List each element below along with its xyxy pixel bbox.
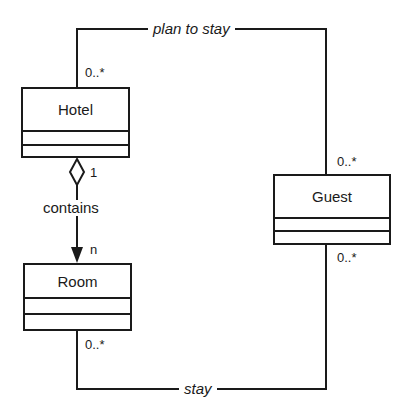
class-hotel-operations bbox=[23, 146, 128, 156]
class-hotel-name: Hotel bbox=[23, 89, 128, 132]
aggregation-diamond-icon bbox=[70, 159, 84, 185]
association-label-stay: stay bbox=[179, 381, 217, 397]
class-guest[interactable]: Guest bbox=[273, 174, 391, 245]
class-room[interactable]: Room bbox=[23, 263, 132, 331]
association-label-contains: contains bbox=[42, 200, 100, 216]
class-hotel-attributes bbox=[23, 132, 128, 146]
class-hotel[interactable]: Hotel bbox=[21, 87, 130, 158]
class-room-name: Room bbox=[25, 265, 130, 299]
multiplicity-guest-plan: 0..* bbox=[337, 155, 357, 169]
class-guest-attributes bbox=[275, 219, 389, 232]
multiplicity-room-stay: 0..* bbox=[85, 338, 105, 352]
association-label-plan-to-stay: plan to stay bbox=[148, 21, 235, 37]
class-room-operations bbox=[25, 315, 130, 329]
multiplicity-guest-stay: 0..* bbox=[337, 251, 357, 265]
class-guest-name: Guest bbox=[275, 176, 389, 219]
multiplicity-hotel-contains: 1 bbox=[90, 166, 97, 180]
class-room-attributes bbox=[25, 299, 130, 315]
multiplicity-hotel-plan: 0..* bbox=[85, 66, 105, 80]
class-guest-operations bbox=[275, 232, 389, 243]
arrowhead-icon bbox=[71, 247, 83, 263]
multiplicity-room-contains: n bbox=[90, 243, 97, 257]
